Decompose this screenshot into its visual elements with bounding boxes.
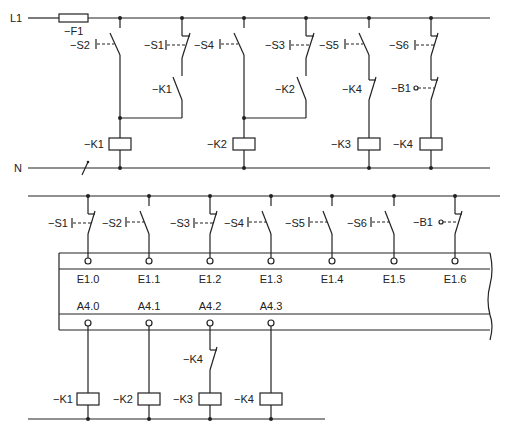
plc-coil-k3-label: −K3 xyxy=(173,393,193,405)
plc-coil-k3-icon xyxy=(199,393,221,405)
plc-s5-label: −S5 xyxy=(285,217,305,229)
s4-label: −S4 xyxy=(194,39,214,51)
s3-label: −S3 xyxy=(265,39,285,51)
k1-hold-contact-icon xyxy=(173,77,182,100)
coil-k1-icon xyxy=(109,138,131,150)
k2-hold-label: −K2 xyxy=(275,83,295,95)
wiring-diagram xyxy=(0,0,518,435)
output-a4-1: A4.1 xyxy=(138,300,161,312)
input-e1-0: E1.0 xyxy=(77,273,100,285)
coil-k2-icon xyxy=(233,138,255,150)
plc-s2-label: −S2 xyxy=(102,217,122,229)
coil-k1-label: −K1 xyxy=(84,138,104,150)
coil-k4-label: −K4 xyxy=(393,138,413,150)
plc-break-line xyxy=(488,253,492,340)
s5-no-contact-icon xyxy=(359,33,369,55)
s4-no-contact-icon xyxy=(234,33,244,55)
plc-coil-k1-icon xyxy=(77,393,99,405)
s1-label: −S1 xyxy=(144,39,164,51)
plc-coil-k2-icon xyxy=(138,393,160,405)
s6-label: −S6 xyxy=(389,39,409,51)
input-e1-3: E1.3 xyxy=(260,273,283,285)
output-a4-0: A4.0 xyxy=(77,300,100,312)
plc-coil-k1-label: −K1 xyxy=(53,393,73,405)
k1-hold-label: −K1 xyxy=(152,83,172,95)
k2-hold-contact-icon xyxy=(297,77,306,100)
plc-s4-label: −S4 xyxy=(224,217,244,229)
coil-k3-label: −K3 xyxy=(331,138,351,150)
s2-label: −S2 xyxy=(70,39,90,51)
input-e1-6: E1.6 xyxy=(444,273,467,285)
input-e1-4: E1.4 xyxy=(321,273,344,285)
s2-no-contact-icon xyxy=(110,33,120,55)
plc-coil-k2-label: −K2 xyxy=(113,393,133,405)
output-a4-2: A4.2 xyxy=(199,300,222,312)
fuse-label: −F1 xyxy=(64,25,83,37)
fuse-f1-icon xyxy=(59,14,88,22)
coil-k2-label: −K2 xyxy=(207,138,227,150)
plc-interlock-k4-label: −K4 xyxy=(183,353,203,365)
input-e1-5: E1.5 xyxy=(383,273,406,285)
input-e1-1: E1.1 xyxy=(138,273,161,285)
b1-sensor-icon xyxy=(414,86,418,90)
b1-label: −B1 xyxy=(391,82,411,94)
coil-k4-icon xyxy=(420,138,442,150)
plc-s1-label: −S1 xyxy=(48,217,68,229)
s5-label: −S5 xyxy=(319,39,339,51)
input-e1-2: E1.2 xyxy=(199,273,222,285)
output-a4-3: A4.3 xyxy=(260,300,283,312)
plc-coil-k4-label: −K4 xyxy=(234,393,254,405)
plc-coil-k4-icon xyxy=(260,393,282,405)
rail-n-label: N xyxy=(14,162,22,174)
plc-b1-label: −B1 xyxy=(413,216,433,228)
plc-s6-label: −S6 xyxy=(347,217,367,229)
plc-s3-label: −S3 xyxy=(170,217,190,229)
rail-l1-label: L1 xyxy=(10,12,22,24)
coil-k3-icon xyxy=(358,138,380,150)
k4-nc-label: −K4 xyxy=(342,83,362,95)
